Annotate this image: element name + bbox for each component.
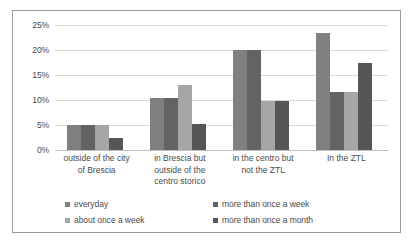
y-axis-tick-label: 0% bbox=[37, 145, 49, 155]
legend-item[interactable]: more than once a month bbox=[213, 215, 313, 225]
bar-group bbox=[55, 25, 138, 150]
legend-label: everyday bbox=[74, 199, 108, 209]
bar bbox=[316, 33, 330, 150]
bar-group bbox=[138, 25, 221, 150]
legend-swatch-icon bbox=[213, 202, 218, 207]
y-axis-tick-label: 15% bbox=[32, 70, 49, 80]
bar bbox=[344, 92, 358, 151]
bar bbox=[192, 124, 206, 150]
x-axis-category-label: outside of the city of Brescia bbox=[55, 153, 138, 176]
legend-swatch-icon bbox=[65, 218, 70, 223]
legend-label: more than once a week bbox=[222, 199, 309, 209]
legend-item[interactable]: everyday bbox=[65, 199, 108, 209]
bar-group bbox=[222, 25, 305, 150]
bar-group bbox=[305, 25, 388, 150]
y-axis-tick-label: 20% bbox=[32, 45, 49, 55]
bar bbox=[164, 98, 178, 150]
bar bbox=[95, 125, 109, 150]
legend-label: more than once a month bbox=[222, 215, 313, 225]
x-axis-category-label: In the ZTL bbox=[305, 153, 388, 165]
legend-swatch-icon bbox=[65, 202, 70, 207]
x-axis-line bbox=[55, 150, 388, 151]
x-axis-category-label: in Brescia but outside of the centro sto… bbox=[138, 153, 221, 188]
y-axis-tick-label: 5% bbox=[37, 120, 49, 130]
bar bbox=[81, 125, 95, 150]
y-axis-tick-label: 10% bbox=[32, 95, 49, 105]
bar bbox=[178, 85, 192, 150]
y-axis-tick-label: 25% bbox=[32, 20, 49, 30]
bar bbox=[233, 50, 247, 150]
y-axis: 0%5%10%15%20%25% bbox=[13, 25, 53, 150]
bar bbox=[247, 50, 261, 150]
legend-item[interactable]: about once a week bbox=[65, 215, 145, 225]
bar bbox=[275, 101, 289, 151]
legend-item[interactable]: more than once a week bbox=[213, 199, 309, 209]
plot-area bbox=[55, 25, 388, 150]
bar bbox=[358, 63, 372, 151]
bar bbox=[330, 92, 344, 151]
bar bbox=[67, 125, 81, 150]
x-axis-category-label: in the centro but not the ZTL bbox=[222, 153, 305, 176]
legend-label: about once a week bbox=[74, 215, 145, 225]
legend-swatch-icon bbox=[213, 218, 218, 223]
bar bbox=[150, 98, 164, 150]
x-axis-category-labels: outside of the city of Bresciain Brescia… bbox=[55, 153, 388, 197]
bar bbox=[109, 138, 123, 151]
chart-figure: 0%5%10%15%20%25% outside of the city of … bbox=[12, 10, 401, 233]
bar bbox=[261, 101, 275, 151]
